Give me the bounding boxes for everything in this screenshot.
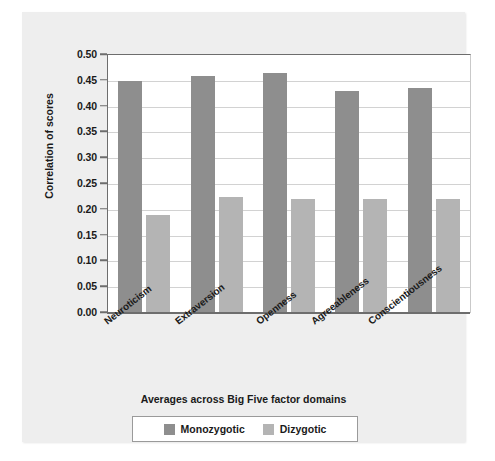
bar-dizygotic-neuroticism [146,215,170,313]
y-axis-tick-label: 0.25 [77,177,97,189]
x-axis-line [107,312,470,314]
y-axis-tick-label: 0.05 [77,280,97,292]
legend-label: Monozygotic [181,423,245,435]
y-axis-tick-label: 0.35 [77,125,97,137]
plot-area [107,54,471,313]
y-axis-tick-label: 0.45 [77,74,97,86]
legend-swatch-icon [164,424,175,435]
y-axis-tick-mark [100,208,107,210]
y-axis-tick-label: 0.50 [77,48,97,60]
bar-dizygotic-agreeableness [363,199,387,313]
figure-card: Correlation of scores 0.000.050.100.150.… [22,12,465,442]
bar-monozygotic-neuroticism [118,81,142,313]
y-axis-tick-mark [100,234,107,236]
y-axis-tick-mark [100,260,107,262]
legend-swatch-icon [263,424,274,435]
y-axis-tick-mark [100,182,107,184]
bar-dizygotic-extraversion [219,197,243,313]
gridline [108,81,470,82]
y-axis-tick-mark [100,79,107,81]
y-axis-tick-mark [100,156,107,158]
bar-monozygotic-openness [263,73,287,313]
y-axis-tick-label: 0.30 [77,151,97,163]
y-axis-tick-label: 0.15 [77,229,97,241]
y-axis-tick-label: 0.20 [77,203,97,215]
bar-dizygotic-conscientiousness [436,199,460,313]
y-axis-tick-mark [100,53,107,55]
chart-legend: MonozygoticDizygotic [132,416,358,442]
legend-entry: Dizygotic [263,423,327,435]
y-axis-tick-label: 0.10 [77,254,97,266]
x-axis-title: Averages across Big Five factor domains [22,393,465,405]
bar-monozygotic-extraversion [191,76,215,313]
y-axis-tick-mark [100,131,107,133]
y-axis-tick-mark [100,105,107,107]
y-axis-tick-label: 0.40 [77,100,97,112]
legend-label: Dizygotic [280,423,327,435]
y-axis-tick-mark [100,311,107,313]
y-axis-tick-label: 0.00 [77,306,97,318]
y-axis-tick-mark [100,285,107,287]
legend-entry: Monozygotic [164,423,245,435]
